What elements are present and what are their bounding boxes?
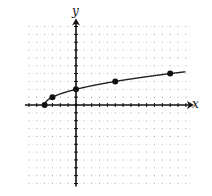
x-axis-label: x: [192, 97, 199, 111]
function-curve: [45, 72, 186, 105]
y-axis-label: y: [72, 4, 79, 18]
data-point: [73, 86, 79, 92]
axes: [25, 19, 194, 187]
graph: [0, 0, 212, 196]
data-point: [112, 78, 118, 84]
data-point: [167, 71, 173, 77]
data-point: [42, 102, 48, 108]
data-point: [49, 94, 55, 100]
